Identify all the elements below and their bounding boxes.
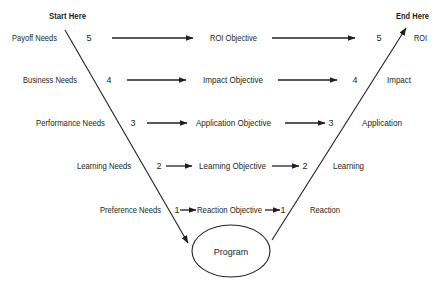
level-number-right: 4 [352, 75, 357, 85]
level-number-right: 1 [280, 205, 285, 215]
need-label: Performance Needs [36, 118, 105, 128]
v-model-diagram: Start Here End Here Program Payoff Needs… [0, 0, 438, 289]
objective-label: Impact Objective [203, 75, 263, 85]
row-level-5: Payoff Needs 5 ROI Objective 5 ROI [12, 33, 427, 43]
objective-label: Reaction Objective [197, 205, 262, 215]
need-label: Preference Needs [100, 205, 161, 215]
start-here-label: Start Here [49, 11, 86, 21]
level-number-right: 5 [376, 33, 381, 43]
evaluation-label: ROI [414, 33, 427, 43]
end-here-label: End Here [396, 11, 429, 21]
level-number-right: 2 [302, 161, 307, 171]
program-node: Program [192, 225, 270, 277]
row-level-4: Business Needs 4 Impact Objective 4 Impa… [23, 75, 411, 85]
row-level-1: Preference Needs 1 Reaction Objective 1 … [100, 205, 340, 215]
evaluation-label: Learning [333, 161, 364, 171]
level-number-left: 2 [156, 161, 161, 171]
need-label: Payoff Needs [12, 33, 57, 43]
objective-label: ROI Objective [210, 33, 257, 43]
need-label: Business Needs [23, 75, 77, 85]
need-label: Learning Needs [77, 161, 131, 171]
level-number-right: 3 [328, 118, 333, 128]
level-number-left: 3 [130, 118, 135, 128]
evaluation-label: Reaction [310, 205, 340, 215]
objective-label: Learning Objective [199, 161, 266, 171]
evaluation-label: Impact [387, 75, 411, 85]
level-number-left: 1 [174, 205, 179, 215]
level-number-left: 5 [86, 33, 91, 43]
program-label: Program [214, 247, 249, 257]
evaluation-label: Application [362, 118, 402, 128]
objective-label: Application Objective [196, 118, 271, 128]
row-level-3: Performance Needs 3 Application Objectiv… [36, 118, 402, 128]
level-number-left: 4 [106, 75, 111, 85]
